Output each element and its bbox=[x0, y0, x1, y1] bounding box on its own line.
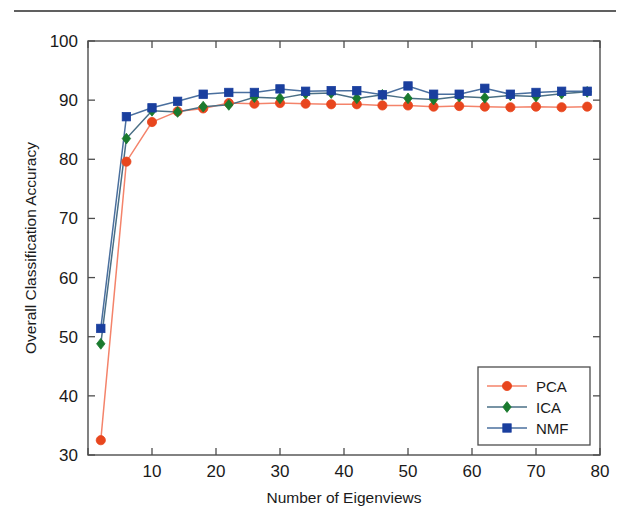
data-point bbox=[97, 338, 105, 349]
line-chart: 102030405060708030405060708090100Number … bbox=[0, 0, 630, 508]
legend-label-nmf: NMF bbox=[536, 420, 569, 437]
y-axis-tick-label: 70 bbox=[59, 209, 78, 228]
data-point bbox=[532, 88, 540, 96]
data-point bbox=[327, 100, 336, 109]
data-point bbox=[122, 113, 130, 121]
data-point bbox=[327, 86, 335, 94]
data-point bbox=[225, 88, 233, 96]
y-axis-tick-label: 100 bbox=[50, 32, 78, 51]
data-point bbox=[404, 82, 412, 90]
y-axis-tick-label: 90 bbox=[59, 91, 78, 110]
series-line-nmf bbox=[101, 86, 587, 328]
data-point bbox=[148, 104, 156, 112]
data-point bbox=[531, 102, 540, 111]
y-axis-tick-label: 80 bbox=[59, 150, 78, 169]
data-point bbox=[301, 99, 310, 108]
series-markers-nmf bbox=[97, 82, 592, 333]
data-point bbox=[276, 85, 284, 93]
data-point bbox=[173, 97, 181, 105]
data-point bbox=[96, 436, 105, 445]
data-point bbox=[455, 90, 463, 98]
legend-label-pca: PCA bbox=[536, 378, 567, 395]
y-axis-tick-label: 50 bbox=[59, 328, 78, 347]
x-axis-tick-label: 80 bbox=[591, 462, 610, 481]
data-point bbox=[250, 88, 258, 96]
x-axis-tick-label: 20 bbox=[207, 462, 226, 481]
data-point bbox=[301, 87, 309, 95]
x-axis-tick-label: 70 bbox=[527, 462, 546, 481]
x-axis-tick-label: 50 bbox=[399, 462, 418, 481]
x-axis-title: Number of Eigenviews bbox=[266, 489, 421, 506]
x-axis-tick-label: 60 bbox=[463, 462, 482, 481]
data-point bbox=[481, 84, 489, 92]
figure-page: 102030405060708030405060708090100Number … bbox=[0, 0, 630, 508]
legend-marker-pca bbox=[502, 381, 511, 390]
y-axis-title: Overall Classification Accuracy bbox=[22, 142, 39, 354]
data-point bbox=[583, 102, 592, 111]
x-axis-tick-label: 40 bbox=[335, 462, 354, 481]
data-point bbox=[122, 157, 131, 166]
data-point bbox=[583, 87, 591, 95]
data-point bbox=[97, 324, 105, 332]
data-point bbox=[429, 90, 437, 98]
y-axis-tick-label: 30 bbox=[59, 446, 78, 465]
y-axis-tick-label: 60 bbox=[59, 269, 78, 288]
data-point bbox=[378, 91, 386, 99]
data-point bbox=[147, 117, 156, 126]
data-point bbox=[481, 92, 489, 103]
legend-label-ica: ICA bbox=[536, 399, 561, 416]
legend: PCAICANMF bbox=[478, 367, 590, 445]
series-markers-ica bbox=[97, 86, 592, 349]
data-point bbox=[506, 90, 514, 98]
x-axis-tick-label: 30 bbox=[271, 462, 290, 481]
data-point bbox=[557, 87, 565, 95]
legend-marker-nmf bbox=[503, 424, 511, 432]
data-point bbox=[455, 101, 464, 110]
x-axis-tick-label: 10 bbox=[143, 462, 162, 481]
data-point bbox=[557, 103, 566, 112]
data-point bbox=[506, 103, 515, 112]
y-axis-tick-label: 40 bbox=[59, 387, 78, 406]
data-point bbox=[353, 86, 361, 94]
data-point bbox=[199, 90, 207, 98]
data-point bbox=[378, 101, 387, 110]
series-line-ica bbox=[101, 92, 587, 344]
legend-box bbox=[478, 367, 590, 445]
